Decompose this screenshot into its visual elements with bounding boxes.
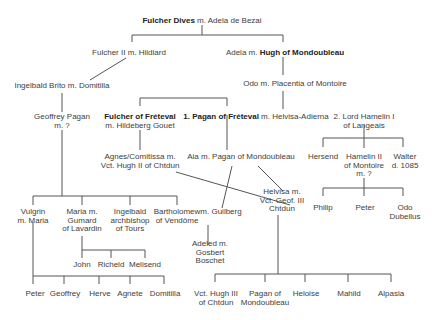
node-melisend: Melisend <box>129 261 161 270</box>
node-label: Alpasia <box>378 289 404 298</box>
node-line: m. Maria <box>17 217 48 226</box>
node-bartholomew: Bartholomew of Vendôme <box>154 208 201 225</box>
node-line: m. ? <box>34 122 90 131</box>
node-fulcher-freteval: Fulcher of Fréteval m. Hildeberg Gouet <box>104 113 176 130</box>
node-name: Fulcher Dives <box>142 16 194 25</box>
node-label: Melisend <box>129 260 161 269</box>
node-adela-hugh: Adela m. Hugh of Mondoubleau <box>226 49 344 58</box>
node-hamelin-ii: Hamelin II of Montoire m. ? <box>344 153 384 179</box>
node-fulcher-dives: Fulcher Dives m. Adela de Bezai <box>142 17 261 26</box>
node-mahild: Mahild <box>337 290 361 299</box>
node-adeled: Adeled m. Gosbert Boschet <box>192 240 228 266</box>
node-label: Herve <box>89 289 110 298</box>
node-name: Hugh of Mondoubleau <box>260 48 344 57</box>
node-maria: Maria m. Gumard of Lavardin <box>62 208 102 234</box>
node-philip: Philip <box>313 204 333 213</box>
node-label: Philip <box>313 203 333 212</box>
node-line: of Lavardin <box>62 225 102 234</box>
node-fulcher-ii: Fulcher II m. Hildiard <box>92 49 166 58</box>
node-label: Richeld <box>98 260 125 269</box>
node-geoffrey-pagan: Geoffrey Pagan m. ? <box>34 113 90 130</box>
node-spouse: m. Hildeberg Gouet <box>104 122 176 131</box>
node-line: Mondoubleau <box>241 299 289 308</box>
node-label: Odo m. Placentia of Montoire <box>243 79 347 88</box>
node-aia: Aia m. Pagan of Mondoubleau <box>187 153 295 162</box>
node-line: Dubellus <box>389 213 420 222</box>
node-label: Peter <box>25 289 44 298</box>
node-line: d. 1085 <box>392 162 419 171</box>
node-line: Vct. Hugh II of Chtdun <box>101 162 180 171</box>
node-odo-placentia: Odo m. Placentia of Montoire <box>243 80 347 89</box>
node-label: John <box>73 260 90 269</box>
node-line: Boschet <box>192 257 228 266</box>
node-label: Ingelbald Brito m. Domitilla <box>14 81 109 90</box>
node-label: Fulcher II m. Hildiard <box>92 48 166 57</box>
node-herve: Herve <box>89 290 110 299</box>
node-line: of Vendôme <box>154 217 201 226</box>
node-label: m. Guilberg <box>200 207 241 216</box>
node-line: of Chtdun <box>194 299 238 308</box>
node-line: of Tours <box>110 225 149 234</box>
node-agnes: Agnes/Comitissa m. Vct. Hugh II of Chtdu… <box>101 153 180 170</box>
node-line: m. ? <box>344 170 384 179</box>
node-helvisa: Helvisa m. Vct. Geof. III Chtdun <box>260 188 304 214</box>
node-peter-left: Peter <box>25 290 44 299</box>
node-geoffrey: Geoffrey <box>50 290 81 299</box>
node-pagan-freteval: 1. Pagan of Fréteval m. Helvisa-Adierna <box>183 113 328 122</box>
node-spouse: m. Adela de Bezai <box>195 16 262 25</box>
node-line: of Langeais <box>334 122 395 131</box>
node-label: Hersend <box>308 152 338 161</box>
node-label: Aia m. Pagan of Mondoubleau <box>187 152 295 161</box>
node-name: 1. Pagan of Fréteval <box>183 112 259 121</box>
node-spouse: m. Helvisa-Adierna <box>259 112 329 121</box>
node-label: Agnete <box>117 289 142 298</box>
node-odo-dubellus: Odo Dubellus <box>389 204 420 221</box>
node-hamelin-i: 2. Lord Hamelin I of Langeais <box>334 113 395 130</box>
node-vulgrin: Vulgrin m. Maria <box>17 208 48 225</box>
node-walter: Walter d. 1085 <box>392 153 419 170</box>
node-label: Peter <box>355 203 374 212</box>
node-label: Domitilla <box>150 289 181 298</box>
node-label: Geoffrey <box>50 289 81 298</box>
node-john: John <box>73 261 90 270</box>
node-agnete: Agnete <box>117 290 142 299</box>
node-heloise: Heloise <box>293 290 320 299</box>
node-richeld: Richeld <box>98 261 125 270</box>
node-hersend: Hersend <box>308 153 338 162</box>
node-pagan-mondoubleau: Pagan of Mondoubleau <box>241 290 289 307</box>
node-label: Heloise <box>293 289 320 298</box>
node-domitilla: Domitilla <box>150 290 181 299</box>
node-vct-hugh-iii: Vct. Hugh III of Chtdun <box>194 290 238 307</box>
node-peter-right: Peter <box>355 204 374 213</box>
node-line: Chtdun <box>260 205 304 214</box>
node-ingelbald-archbishop: Ingelbald archbishop of Tours <box>110 208 149 234</box>
node-spouse: Adela m. <box>226 48 260 57</box>
family-tree-diagram: Fulcher Dives m. Adela de Bezai Fulcher … <box>0 0 440 320</box>
node-ingelbald-brito: Ingelbald Brito m. Domitilla <box>14 82 109 91</box>
node-guilberg: m. Guilberg <box>200 208 241 217</box>
node-alpasia: Alpasia <box>378 290 404 299</box>
node-label: Mahild <box>337 289 361 298</box>
